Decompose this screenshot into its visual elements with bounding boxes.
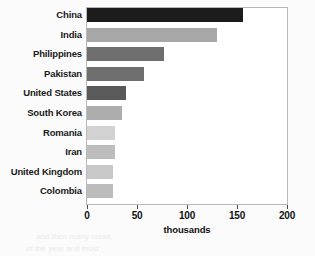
- bar: [87, 8, 243, 22]
- bar: [87, 47, 164, 61]
- x-tick-label: 200: [279, 210, 295, 221]
- bar: [87, 86, 126, 100]
- x-tick-mark: [137, 205, 138, 209]
- category-label: India: [0, 30, 82, 40]
- bars-layer: [87, 8, 287, 204]
- category-label: Iran: [0, 147, 82, 157]
- category-label: Philippines: [0, 49, 82, 59]
- x-tick-mark: [287, 205, 288, 209]
- x-tick-mark: [237, 205, 238, 209]
- x-tick-label: 100: [179, 210, 195, 221]
- x-tick-label: 0: [84, 210, 89, 221]
- bar-chart-figure: IN THE WORLD in the world sey notes that…: [0, 0, 315, 256]
- category-label: China: [0, 10, 82, 20]
- x-tick-label: 50: [132, 210, 143, 221]
- category-label: Pakistan: [0, 69, 82, 79]
- bar: [87, 145, 115, 159]
- x-tick-label: 150: [229, 210, 245, 221]
- x-tick-mark: [87, 205, 88, 209]
- x-tick-mark: [187, 205, 188, 209]
- category-axis-labels: ChinaIndiaPhilippinesPakistanUnited Stat…: [0, 7, 82, 205]
- x-axis-title: thousands: [86, 224, 288, 235]
- category-label: United Kingdom: [0, 167, 82, 177]
- bar: [87, 67, 144, 81]
- bar: [87, 126, 115, 140]
- bar: [87, 184, 113, 198]
- category-label: Romania: [0, 128, 82, 138]
- bar: [87, 106, 122, 120]
- category-label: Colombia: [0, 186, 82, 196]
- bar: [87, 28, 217, 42]
- bar: [87, 165, 113, 179]
- category-label: South Korea: [0, 108, 82, 118]
- category-label: United States: [0, 88, 82, 98]
- ghost-text-line8: of the year and most: [26, 244, 99, 253]
